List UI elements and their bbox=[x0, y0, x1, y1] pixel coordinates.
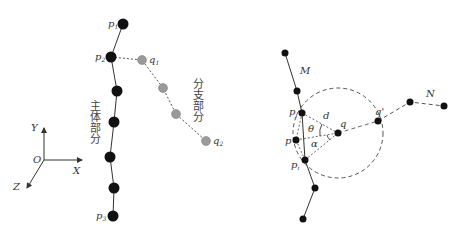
point-q1 bbox=[138, 56, 147, 65]
chain-m-point bbox=[312, 185, 319, 192]
point-p2 bbox=[106, 52, 117, 63]
label-p: p bbox=[285, 135, 292, 146]
chain-m-point bbox=[300, 216, 307, 223]
branch-part-label: 分支部分 bbox=[191, 78, 205, 122]
point-pi bbox=[302, 157, 309, 164]
point-p3 bbox=[108, 211, 119, 222]
main-point bbox=[112, 86, 123, 97]
z-axis-label: Z bbox=[12, 181, 21, 192]
label-chain-n: N bbox=[425, 88, 436, 99]
label-q: q bbox=[340, 118, 346, 129]
label-p3: p3 bbox=[96, 210, 106, 222]
angle-theta-arc bbox=[320, 124, 322, 136]
point-q bbox=[335, 130, 342, 137]
diagram-canvas: Y X Z O p1 p2 p3 q1 q2 bbox=[0, 0, 460, 235]
label-pi: pi bbox=[291, 159, 299, 171]
chain-m-point bbox=[282, 50, 289, 57]
label-p2: p2 bbox=[95, 51, 105, 63]
chain-n-point bbox=[441, 103, 448, 110]
main-body-points bbox=[105, 19, 129, 222]
main-point bbox=[109, 117, 120, 128]
label-alpha: α bbox=[311, 138, 318, 149]
label-q2: q2 bbox=[213, 135, 223, 147]
chain-m-point bbox=[294, 88, 301, 95]
branch-point bbox=[172, 110, 181, 119]
y-axis-label: Y bbox=[31, 122, 39, 133]
label-q1: q1 bbox=[149, 54, 159, 66]
point-q2 bbox=[202, 137, 211, 146]
left-panel: Y X Z O p1 p2 p3 q1 q2 bbox=[12, 18, 223, 222]
coordinate-axes: Y X Z O bbox=[12, 122, 82, 192]
point-p1 bbox=[118, 19, 129, 30]
label-chain-m: M bbox=[299, 65, 311, 76]
label-theta: θ bbox=[308, 123, 314, 134]
origin-label: O bbox=[33, 154, 41, 165]
point-q-prime bbox=[375, 118, 382, 125]
main-point bbox=[105, 152, 116, 163]
main-point bbox=[109, 183, 120, 194]
point-pj bbox=[299, 110, 306, 117]
branch-point bbox=[159, 84, 168, 93]
right-panel: M N pj p pi q q' d θ α bbox=[282, 50, 448, 223]
point-p bbox=[293, 137, 300, 144]
main-body-label: 主体部分 bbox=[88, 100, 102, 144]
angle-alpha-arc bbox=[327, 135, 330, 140]
label-pj: pj bbox=[289, 106, 297, 119]
label-distance-d: d bbox=[323, 110, 329, 121]
chain-n-point bbox=[407, 99, 414, 106]
label-p1: p1 bbox=[108, 18, 118, 30]
x-axis-label: X bbox=[72, 165, 81, 176]
label-q-prime: q' bbox=[375, 106, 384, 117]
line-pi-q bbox=[305, 133, 338, 160]
